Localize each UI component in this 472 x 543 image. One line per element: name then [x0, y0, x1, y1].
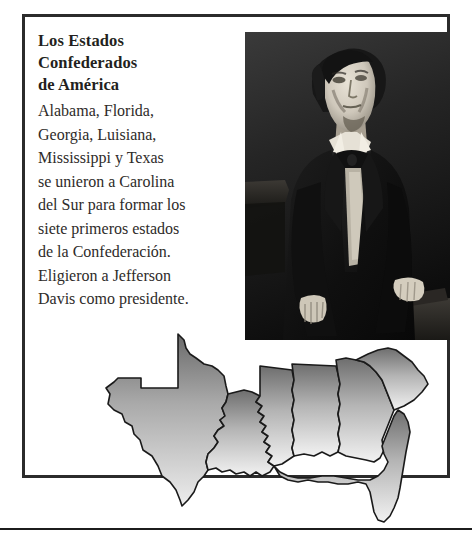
body-line-5: del Sur para formar los — [38, 193, 233, 217]
title-line-2: Confederados — [38, 52, 233, 74]
body-line-7: de la Confederación. — [38, 240, 233, 264]
body-line-2: Georgia, Luisiana, — [38, 123, 233, 147]
text-column: Los Estados Confederados de América Alab… — [38, 30, 233, 311]
page-bottom-rule — [0, 528, 472, 530]
body-line-6: siete primeros estados — [38, 217, 233, 241]
body-line-9: Davis como presidente. — [38, 287, 233, 311]
body-line-3: Mississippi y Texas — [38, 146, 233, 170]
body-line-8: Eligieron a Jefferson — [38, 264, 233, 288]
title-line-3: de América — [38, 74, 233, 96]
body-paragraph: Alabama, Florida, Georgia, Luisiana, Mis… — [38, 99, 233, 311]
body-line-4: se unieron a Carolina — [38, 170, 233, 194]
body-line-1: Alabama, Florida, — [38, 99, 233, 123]
page-title: Los Estados Confederados de América — [38, 30, 233, 96]
jefferson-davis-photo — [245, 32, 450, 340]
page-canvas: Los Estados Confederados de América Alab… — [0, 0, 472, 543]
title-line-1: Los Estados — [38, 30, 233, 52]
